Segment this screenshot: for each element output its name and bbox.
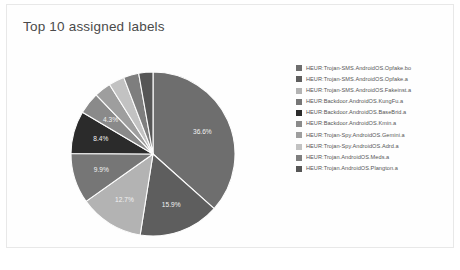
- pie-slice-value-label: 9.9%: [94, 166, 109, 173]
- pie-slice-value-label: 36.6%: [193, 128, 212, 135]
- legend-color-swatch: [296, 88, 302, 94]
- legend-color-swatch: [296, 132, 302, 138]
- legend-color-swatch: [296, 144, 302, 150]
- legend-item-label: HEUR:Backdoor.AndroidOS.BaseBrid.a: [306, 110, 406, 116]
- legend-color-swatch: [296, 99, 302, 105]
- pie-slice-value-label: 8.4%: [93, 135, 108, 142]
- legend-item[interactable]: HEUR:Backdoor.AndroidOS.Kmin.a: [296, 119, 460, 130]
- chart-legend: HEUR:Trojan-SMS.AndroidOS.Opfake.boHEUR:…: [296, 63, 460, 175]
- pie-slice-value-label: 12.7%: [115, 196, 134, 203]
- legend-item-label: HEUR:Trojan-SMS.AndroidOS.Opfake.a: [306, 77, 408, 83]
- page-title: Top 10 assigned labels: [23, 19, 165, 34]
- legend-item-label: HEUR:Trojan.AndroidOS.Meds.a: [306, 155, 389, 161]
- legend-item-label: HEUR:Backdoor.AndroidOS.KungFu.a: [306, 99, 403, 105]
- legend-item-label: HEUR:Trojan-Spy.AndroidOS.Adrd.a: [306, 144, 399, 150]
- legend-item[interactable]: HEUR:Trojan-SMS.AndroidOS.Fakeinst.a: [296, 85, 460, 96]
- legend-item[interactable]: HEUR:Trojan.AndroidOS.Meds.a: [296, 153, 460, 164]
- legend-item[interactable]: HEUR:Trojan.AndroidOS.Plangton.a: [296, 164, 460, 175]
- legend-color-swatch: [296, 110, 302, 116]
- chart-card: Top 10 assigned labels 36.6%15.9%12.7%9.…: [6, 4, 454, 248]
- legend-color-swatch: [296, 121, 302, 127]
- legend-color-swatch: [296, 166, 302, 172]
- legend-item[interactable]: HEUR:Trojan-Spy.AndroidOS.Gemini.a: [296, 130, 460, 141]
- pie-chart: 36.6%15.9%12.7%9.9%8.4%4.3%: [70, 71, 236, 237]
- legend-color-swatch: [296, 155, 302, 161]
- legend-item-label: HEUR:Trojan-SMS.AndroidOS.Opfake.bo: [306, 66, 411, 72]
- legend-item[interactable]: HEUR:Backdoor.AndroidOS.KungFu.a: [296, 97, 460, 108]
- legend-item[interactable]: HEUR:Trojan-Spy.AndroidOS.Adrd.a: [296, 141, 460, 152]
- legend-item-label: HEUR:Trojan.AndroidOS.Plangton.a: [306, 166, 398, 172]
- pie-slice-value-label: 15.9%: [162, 201, 181, 208]
- pie-slice-value-label: 4.3%: [103, 116, 118, 123]
- legend-item-label: HEUR:Trojan-SMS.AndroidOS.Fakeinst.a: [306, 88, 411, 94]
- pie-chart-svg: 36.6%15.9%12.7%9.9%8.4%4.3%: [70, 71, 236, 237]
- legend-item[interactable]: HEUR:Trojan-SMS.AndroidOS.Opfake.bo: [296, 63, 460, 74]
- legend-item-label: HEUR:Backdoor.AndroidOS.Kmin.a: [306, 121, 396, 127]
- legend-color-swatch: [296, 76, 302, 82]
- legend-item[interactable]: HEUR:Backdoor.AndroidOS.BaseBrid.a: [296, 108, 460, 119]
- legend-item-label: HEUR:Trojan-Spy.AndroidOS.Gemini.a: [306, 133, 405, 139]
- legend-item[interactable]: HEUR:Trojan-SMS.AndroidOS.Opfake.a: [296, 74, 460, 85]
- pie-slices: [71, 72, 235, 236]
- legend-color-swatch: [296, 65, 302, 71]
